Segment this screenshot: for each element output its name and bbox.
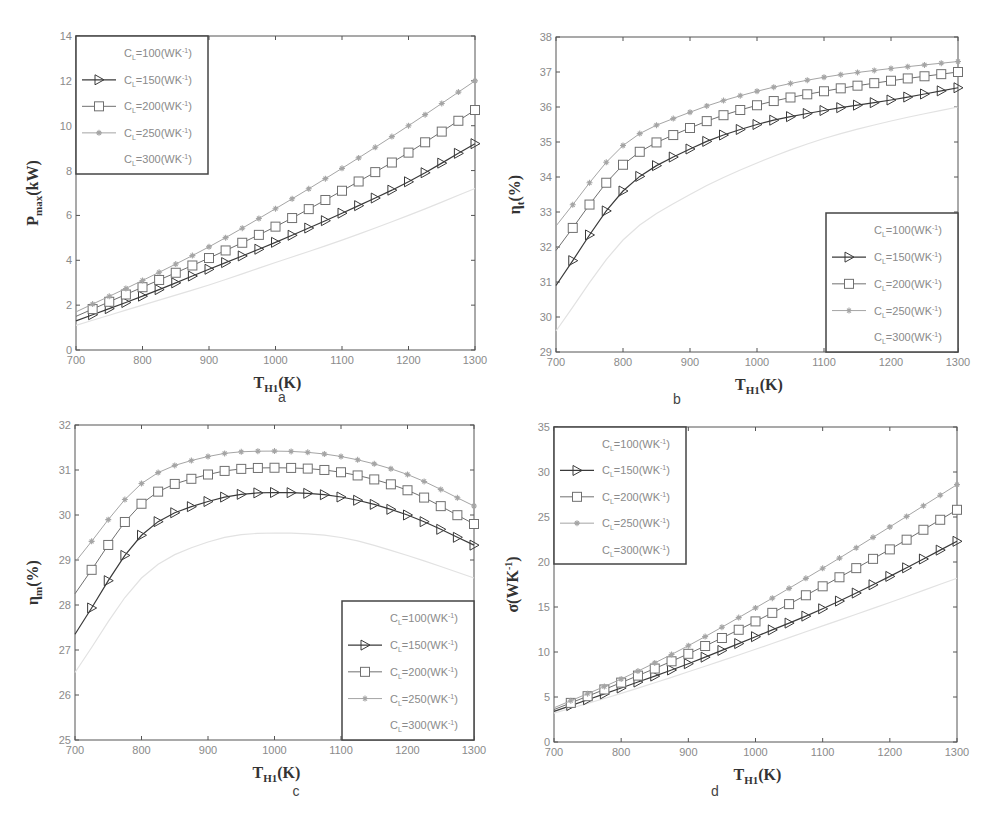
square-marker-icon	[853, 81, 862, 90]
star-marker-icon	[838, 72, 844, 78]
x-tick-label: 900	[200, 354, 218, 366]
legend-marker-icon	[573, 492, 582, 501]
square-marker-icon	[436, 502, 445, 511]
square-marker-icon	[818, 582, 827, 591]
star-marker-icon	[322, 176, 328, 182]
y-axis-label: Pmax(kW)	[24, 160, 44, 226]
star-marker-icon	[173, 261, 179, 267]
square-marker-icon	[271, 222, 280, 231]
star-marker-icon	[155, 470, 161, 476]
square-marker-icon	[154, 487, 163, 496]
square-marker-icon	[387, 158, 396, 167]
star-marker-icon	[272, 448, 278, 454]
x-tick-label: 1000	[263, 354, 287, 366]
square-marker-icon	[801, 591, 810, 600]
square-marker-icon	[220, 466, 229, 475]
star-marker-icon	[685, 643, 691, 649]
star-marker-icon	[471, 503, 477, 509]
data-series-0	[554, 578, 957, 713]
legend: CL=100(WK-1)CL=150(WK-1)CL=200(WK-1)CL=2…	[826, 213, 958, 352]
y-tick-label: 4	[66, 254, 72, 266]
star-marker-icon	[321, 451, 327, 457]
square-marker-icon	[471, 106, 480, 115]
star-marker-icon	[239, 225, 245, 231]
y-tick-label: 29	[540, 346, 552, 358]
x-tick-label: 800	[614, 356, 632, 368]
square-marker-icon	[371, 168, 380, 177]
star-marker-icon	[753, 605, 759, 611]
star-marker-icon	[188, 458, 194, 464]
square-marker-icon	[221, 246, 230, 255]
square-marker-icon	[768, 608, 777, 617]
y-tick-label: 30	[59, 509, 71, 521]
star-marker-icon	[786, 585, 792, 591]
star-marker-icon	[189, 253, 195, 259]
star-marker-icon	[172, 462, 178, 468]
chart-panel-d: 700800900100011001200130005101520253035C…	[503, 421, 969, 799]
square-marker-icon	[155, 275, 164, 284]
square-marker-icon	[820, 87, 829, 96]
square-marker-icon	[619, 160, 628, 169]
star-marker-icon	[256, 215, 262, 221]
x-tick-label: 1000	[262, 744, 286, 756]
x-tick-label: 1200	[878, 746, 902, 758]
square-marker-icon	[751, 617, 760, 626]
y-tick-label: 27	[59, 644, 71, 656]
square-marker-icon	[803, 90, 812, 99]
square-marker-icon	[719, 111, 728, 120]
square-marker-icon	[903, 74, 912, 83]
panel-label: b	[673, 391, 681, 407]
data-series-2	[75, 463, 479, 594]
star-marker-icon	[769, 595, 775, 601]
star-marker-icon	[836, 555, 842, 561]
square-marker-icon	[870, 79, 879, 88]
series-line	[556, 62, 958, 227]
square-marker-icon	[171, 268, 180, 277]
star-marker-icon	[820, 565, 826, 571]
star-marker-icon	[803, 575, 809, 581]
square-marker-icon	[717, 633, 726, 642]
square-marker-icon	[669, 131, 678, 140]
star-marker-icon	[721, 98, 727, 104]
y-tick-label: 36	[540, 101, 552, 113]
x-tick-label: 900	[199, 744, 217, 756]
x-tick-label: 800	[133, 354, 151, 366]
y-tick-label: 31	[540, 276, 552, 288]
y-tick-label: 29	[59, 554, 71, 566]
square-marker-icon	[353, 471, 362, 480]
y-tick-label: 12	[60, 75, 72, 87]
square-marker-icon	[736, 105, 745, 114]
square-marker-icon	[104, 540, 113, 549]
star-marker-icon	[719, 624, 725, 630]
star-marker-icon	[687, 109, 693, 115]
star-marker-icon	[955, 59, 961, 65]
star-marker-icon	[922, 62, 928, 68]
star-marker-icon	[405, 472, 411, 478]
square-marker-icon	[437, 127, 446, 136]
square-marker-icon	[270, 463, 279, 472]
star-marker-icon	[422, 112, 428, 118]
chart-panel-b: 7008009001000110012001300293031323334353…	[506, 31, 970, 407]
x-tick-label: 900	[681, 356, 699, 368]
y-tick-label: 14	[60, 30, 72, 42]
panel-label: a	[278, 389, 286, 405]
square-marker-icon	[887, 76, 896, 85]
star-marker-icon	[273, 206, 279, 212]
legend-marker-icon	[361, 667, 370, 676]
star-marker-icon	[205, 454, 211, 460]
y-tick-label: 25	[538, 511, 550, 523]
legend: CL=100(WK-1)CL=150(WK-1)CL=200(WK-1)CL=2…	[554, 427, 686, 564]
x-tick-label: 1300	[946, 356, 970, 368]
y-axis-label: ηm(%)	[24, 560, 44, 605]
x-axis-label: TH1(K)	[734, 766, 782, 786]
square-marker-icon	[786, 93, 795, 102]
star-marker-icon	[372, 144, 378, 150]
star-marker-icon	[438, 486, 444, 492]
y-tick-label: 28	[59, 599, 71, 611]
star-marker-icon	[371, 461, 377, 467]
x-axis-label: TH1(K)	[735, 376, 783, 396]
star-marker-icon	[704, 103, 710, 109]
y-axis-label: σ(WK-1)	[503, 556, 522, 612]
y-tick-label: 35	[540, 136, 552, 148]
legend: CL=100(WK-1)CL=150(WK-1)CL=200(WK-1)CL=2…	[76, 36, 208, 174]
